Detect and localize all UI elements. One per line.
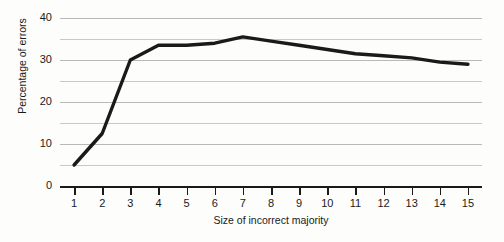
x-tick <box>468 188 470 195</box>
x-tick-label: 11 <box>343 197 367 209</box>
x-tick <box>271 188 273 195</box>
x-tick <box>102 188 104 195</box>
x-tick <box>355 188 357 195</box>
x-tick <box>440 188 442 195</box>
x-tick <box>215 188 217 195</box>
y-axis-title: Percentage of errors <box>16 0 28 146</box>
x-tick-label: 4 <box>146 197 170 209</box>
x-tick-label: 3 <box>118 197 142 209</box>
x-tick <box>299 188 301 195</box>
gridline <box>60 123 482 124</box>
x-tick <box>158 188 160 195</box>
x-tick-label: 1 <box>62 197 86 209</box>
y-axis: 010203040 <box>0 0 56 242</box>
chart-figure: 010203040 Percentage of errors 123456789… <box>0 0 504 242</box>
x-tick-label: 13 <box>400 197 424 209</box>
gridline <box>60 102 482 103</box>
gridline <box>60 81 482 82</box>
x-tick <box>412 188 414 195</box>
x-tick-label: 12 <box>372 197 396 209</box>
gridline <box>60 39 482 40</box>
gridline <box>60 144 482 145</box>
plot-area <box>60 18 482 186</box>
x-tick-label: 14 <box>428 197 452 209</box>
x-axis-title: Size of incorrect majority <box>60 214 482 226</box>
x-tick <box>327 188 329 195</box>
x-tick-label: 9 <box>287 197 311 209</box>
x-tick-label: 6 <box>203 197 227 209</box>
x-tick <box>187 188 189 195</box>
x-tick-label: 5 <box>175 197 199 209</box>
x-tick <box>74 188 76 195</box>
y-tick-label: 0 <box>2 180 52 191</box>
x-tick-label: 15 <box>456 197 480 209</box>
gridline <box>60 60 482 61</box>
gridline <box>60 18 482 19</box>
x-tick <box>384 188 386 195</box>
x-tick-label: 7 <box>231 197 255 209</box>
x-tick <box>243 188 245 195</box>
x-tick-label: 10 <box>315 197 339 209</box>
gridline <box>60 165 482 166</box>
x-tick-label: 8 <box>259 197 283 209</box>
x-tick <box>130 188 132 195</box>
x-tick-label: 2 <box>90 197 114 209</box>
